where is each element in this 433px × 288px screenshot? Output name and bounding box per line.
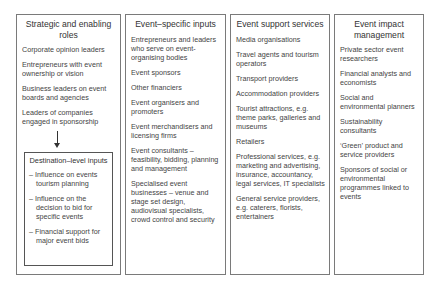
list-item: ‘Green’ product and service providers [340, 141, 420, 159]
list-item: Other financiers [131, 83, 222, 92]
list-item: Tourist attractions, e.g. theme parks, g… [236, 104, 326, 131]
list-item: Travel agents and tourism operators [236, 50, 326, 68]
list-item: Transport providers [236, 74, 326, 83]
arrow-down-icon [54, 143, 60, 148]
list-item: Media organisations [236, 35, 326, 44]
column-title: Strategic and enabling roles [19, 19, 118, 40]
list-item: Business leaders on event boards and age… [22, 84, 117, 102]
list-item: Private sector event researchers [340, 45, 420, 63]
column-event-support-services: Event support services Media organisatio… [230, 14, 330, 275]
list-item: Financial analysts and economists [340, 69, 420, 87]
list-item: Entrepreneurs and leaders who serve on e… [131, 35, 222, 62]
sub-box-title: Destination–level inputs [27, 156, 110, 165]
list-item: Social and environmental planners [340, 93, 420, 111]
list-item: Event merchandisers and licensing firms [131, 122, 222, 140]
list-item: Entrepreneurs with event ownership or vi… [22, 60, 117, 78]
list-item: – Influence on the decision to bid for s… [29, 194, 109, 221]
column-title: Event–specific inputs [128, 19, 223, 30]
list-item: Corporate opinion leaders [22, 45, 117, 54]
list-item: General service providers, e.g. caterers… [236, 194, 326, 221]
column-event-specific-inputs: Event–specific inputs Entrepreneurs and … [125, 14, 226, 275]
list-item: Retailers [236, 137, 326, 146]
destination-level-inputs-box: Destination–level inputs – Influence on … [24, 152, 113, 266]
list-item: Specialised event businesses – venue and… [131, 179, 222, 224]
column-title: Event impact management [337, 19, 421, 40]
list-item: Event organisers and promoters [131, 98, 222, 116]
list-item: Sponsors of social or environmental prog… [340, 165, 420, 201]
list-item: Sustainability consultants [340, 117, 420, 135]
list-item: – Financial support for major event bids [29, 227, 109, 245]
list-item: – Influence on events tourism planning [29, 170, 109, 188]
list-item: Event consultants – feasibility, bidding… [131, 146, 222, 173]
column-event-impact-management: Event impact management Private sector e… [334, 14, 424, 275]
list-item: Professional services, e.g. marketing an… [236, 152, 326, 188]
column-title: Event support services [233, 19, 327, 30]
list-item: Accommodation providers [236, 89, 326, 98]
list-item: Event sponsors [131, 68, 222, 77]
list-item: Leaders of companies engaged in sponsors… [22, 108, 117, 126]
